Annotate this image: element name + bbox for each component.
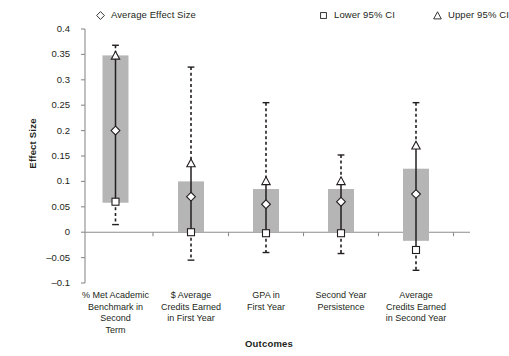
lower-ci-marker [338, 230, 345, 237]
upper-ci-marker [111, 51, 119, 59]
upper-ci-marker [337, 177, 345, 185]
lower-ci-marker [112, 198, 119, 205]
upper-ci-marker [412, 141, 420, 149]
upper-ci-marker [262, 177, 270, 185]
lower-ci-marker [188, 229, 195, 236]
lower-ci-marker [263, 230, 270, 237]
upper-ci-marker [187, 159, 195, 167]
lower-ci-marker [413, 246, 420, 253]
